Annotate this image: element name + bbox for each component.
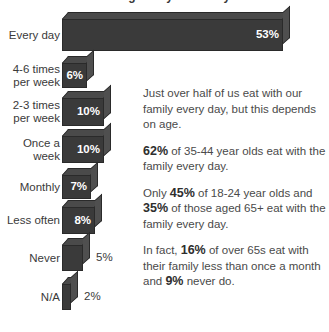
bar-row: N/A2% [0, 278, 150, 318]
bar-category-label-line1: 4-6 times [13, 63, 60, 76]
stat-16-percent: 16% [181, 243, 206, 257]
bar-side-face [71, 271, 78, 303]
commentary-text-3c: of those aged 65+ eat with the family ev… [143, 202, 326, 230]
bar-side-face [104, 85, 111, 119]
bar-category-label-line1: 2-3 times [13, 99, 60, 112]
commentary-paragraph-2: 62% of 35-44 year olds eat with the fami… [143, 144, 327, 175]
bar-value-label: 6% [57, 69, 83, 81]
stat-35-percent: 35% [143, 201, 168, 215]
bar-category-label: Monthly [20, 181, 60, 194]
bar-value-label: 2% [84, 290, 101, 302]
bar-top-face [62, 12, 289, 19]
bar-row: Every day53% [0, 13, 150, 59]
bar-side-face [95, 194, 102, 227]
bar-side-face [283, 6, 290, 44]
commentary-text-1: Just over half of us eat with our family… [143, 87, 316, 130]
bar-value-label: 53% [253, 28, 279, 40]
bar-front-face [62, 19, 283, 51]
commentary-paragraph-4: In fact, 16% of over 65s eat with their … [143, 243, 327, 290]
stat-45-percent: 45% [170, 186, 195, 200]
commentary-panel: Just over half of us eat with our family… [143, 86, 327, 290]
bar-row: 2-3 timesper week10% [0, 92, 150, 134]
bar-side-face [91, 162, 98, 192]
bar-side-face [83, 232, 90, 264]
bar-side-face [104, 123, 111, 156]
bar-3d [62, 19, 283, 51]
bar-value-label: 7% [61, 180, 87, 192]
commentary-text-4c: never do. [183, 275, 234, 287]
bar-category-label: N/A [41, 291, 60, 304]
commentary-text-3a: Only [143, 187, 170, 199]
bar-category-label: 2-3 timesper week [13, 99, 60, 125]
stat-9-percent: 9% [165, 274, 183, 288]
bar-front-face [62, 245, 83, 271]
commentary-text-3b: of 18-24 year olds and [195, 187, 313, 199]
commentary-paragraph-3: Only 45% of 18-24 year olds and 35% of t… [143, 186, 327, 233]
commentary-text-2: of 35-44 year olds eat with the family e… [143, 145, 325, 173]
bar-category-label-line2: week [23, 150, 60, 163]
bar-category-label: Never [29, 252, 60, 265]
bar-row: Once aweek10% [0, 130, 150, 171]
bar-row: Less often8% [0, 201, 150, 242]
bar-side-face [87, 50, 94, 81]
bar-category-label-line2: per week [13, 112, 60, 125]
bar-category-label: Every day [9, 29, 60, 42]
bar-value-label: 10% [74, 105, 100, 117]
bar-category-label-line1: Once a [23, 137, 60, 150]
bar-value-label: 5% [96, 251, 113, 263]
commentary-paragraph-1: Just over half of us eat with our family… [143, 86, 327, 133]
bar-3d [62, 284, 71, 310]
bar-3d [62, 245, 83, 271]
commentary-text-4a: In fact, [143, 244, 181, 256]
bar-category-label-line2: per week [13, 76, 60, 89]
bar-category-label: Less often [7, 214, 60, 227]
bar-category-label: 4-6 timesper week [13, 63, 60, 89]
bar-front-face [62, 284, 71, 310]
bar-value-label: 10% [74, 143, 100, 155]
stat-62-percent: 62% [143, 144, 168, 158]
bar-category-label: Once aweek [23, 137, 60, 163]
bar-chart: Every day53%4-6 timesper week6%2-3 times… [0, 0, 150, 332]
infographic-root: Eating with your family Every day53%4-6 … [0, 0, 329, 332]
bar-value-label: 8% [65, 214, 91, 226]
